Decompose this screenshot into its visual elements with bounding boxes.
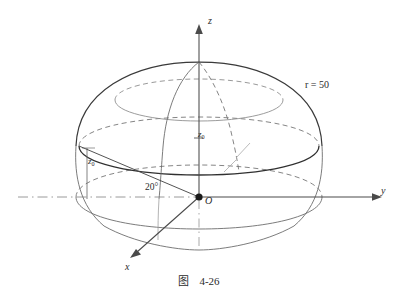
origin-point [195, 193, 202, 200]
z0-subscript-left: 0 [92, 161, 95, 167]
x-axis [130, 197, 199, 258]
z0-label-center: z0 [198, 130, 205, 140]
z0-subscript-center: 0 [202, 134, 205, 140]
radius-label: r = 50 [305, 80, 329, 90]
y-axis [199, 193, 382, 201]
hemisphere-diagram [0, 0, 398, 299]
elevation-angle-ray [79, 146, 199, 197]
origin-label: O [205, 196, 212, 206]
y-axis-label: y [381, 186, 385, 196]
x-axis-label: x [125, 262, 129, 272]
z-axis-label: z [208, 16, 212, 26]
elevation-angle-label: 20° [145, 183, 158, 193]
caption-number: 4-26 [199, 275, 219, 287]
figure-caption: 图4-26 [0, 272, 398, 288]
figure-container: z y x O r = 50 z0 z0 20° 图4-26 [0, 0, 398, 299]
caption-prefix: 图 [178, 275, 189, 287]
z0-label-left: z0 [88, 157, 95, 167]
